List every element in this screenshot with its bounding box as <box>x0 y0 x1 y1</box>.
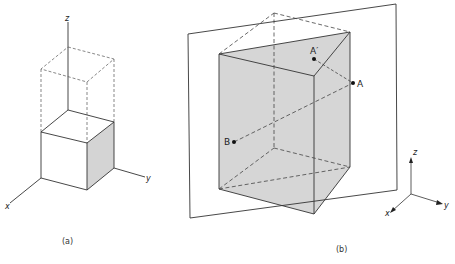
z-arrow-icon <box>409 157 413 163</box>
caption-a: (a) <box>62 237 73 246</box>
dashed-cube <box>41 47 114 143</box>
x-axis-a <box>10 178 41 203</box>
label-a: A <box>357 79 364 89</box>
y-label-a: y <box>145 174 151 183</box>
x-label-b: x <box>384 209 390 218</box>
panel-b <box>188 4 443 218</box>
z-label-a: z <box>64 14 70 23</box>
y-axis-a <box>114 168 145 177</box>
prism-shaded <box>219 32 350 214</box>
panel-a <box>10 22 145 203</box>
label-b: B <box>224 137 230 147</box>
y-label-b: y <box>443 201 449 210</box>
label-a-prime: A′ <box>310 46 318 56</box>
caption-b: (b) <box>336 245 347 254</box>
point-b <box>232 140 236 144</box>
y-arrow-icon <box>436 200 443 205</box>
point-a-prime <box>312 57 316 61</box>
axes-triad <box>392 160 440 211</box>
point-a <box>351 81 355 85</box>
figure-canvas: z y x (a) <box>0 0 455 264</box>
x-label-a: x <box>4 202 10 211</box>
z-label-b: z <box>412 148 418 157</box>
